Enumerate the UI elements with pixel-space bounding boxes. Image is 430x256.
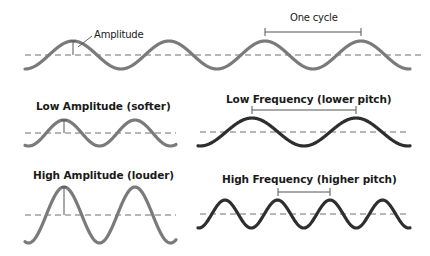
- one-cycle-label: One cycle: [290, 13, 338, 23]
- amplitude-label: Amplitude: [94, 30, 143, 40]
- high-frequency-title: High Frequency (higher pitch): [222, 174, 397, 185]
- waveforms: [25, 41, 410, 243]
- sound-wave-diagram: [0, 0, 430, 256]
- low-frequency-title: Low Frequency (lower pitch): [226, 94, 392, 105]
- cycle-brackets: [252, 28, 361, 196]
- high-amplitude-title: High Amplitude (louder): [33, 170, 174, 181]
- low-amplitude-title: Low Amplitude (softer): [36, 101, 171, 112]
